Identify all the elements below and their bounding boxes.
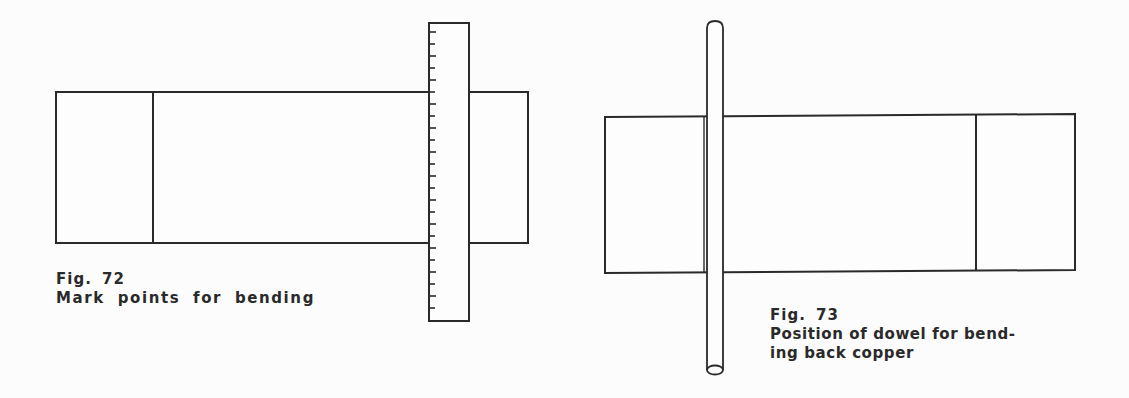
caption-text-line-1: Position of dowel for bend- [770,325,1016,344]
figure-number: Fig. 72 [56,270,315,289]
caption-text: Mark points for bending [56,289,315,308]
ruler [429,23,469,321]
figure-caption-72: Fig. 72 Mark points for bending [56,270,315,308]
figure-number: Fig. 73 [770,306,1016,325]
copper-strip [605,114,1075,273]
caption-text-line-2: ing back copper [770,344,1016,363]
dowel [707,21,723,375]
figure-caption-73: Fig. 73 Position of dowel for bend- ing … [770,306,1016,363]
